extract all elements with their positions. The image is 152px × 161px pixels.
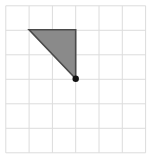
vertex-dot-marker bbox=[73, 76, 79, 82]
grid-triangle-figure bbox=[0, 0, 152, 161]
figure-container bbox=[0, 0, 152, 161]
